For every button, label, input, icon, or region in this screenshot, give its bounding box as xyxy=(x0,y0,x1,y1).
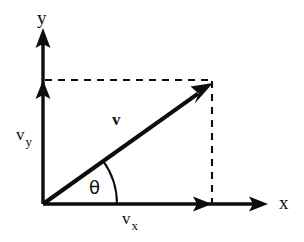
vector-magnitude-label: v xyxy=(112,111,121,128)
x-axis-label: x xyxy=(279,193,289,212)
component-vy-label: vy xyxy=(16,126,31,143)
component-vy-subscript: y xyxy=(26,134,33,149)
component-vx-base: v xyxy=(122,209,131,228)
component-vy-base: v xyxy=(16,125,25,144)
angle-theta-label: θ xyxy=(89,179,100,197)
vector-diagram-figure: y x v θ vy vx xyxy=(0,0,304,242)
vector-diagram-canvas xyxy=(0,0,304,242)
component-vx-subscript: x xyxy=(132,218,139,233)
y-axis-label: y xyxy=(37,8,47,27)
component-vx-label: vx xyxy=(122,210,137,227)
vector-v-arrowhead-icon xyxy=(191,83,214,104)
angle-arc xyxy=(103,161,117,204)
